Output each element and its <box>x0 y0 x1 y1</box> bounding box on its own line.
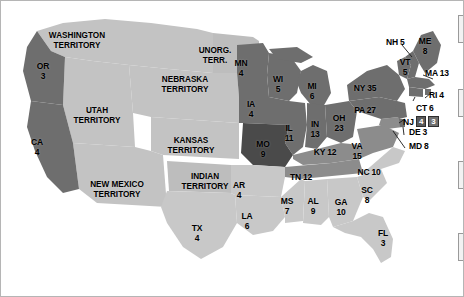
state-connecticut <box>409 87 423 97</box>
state-louisiana <box>235 195 285 235</box>
nj-vote-chip-1: 4 <box>416 116 426 127</box>
leader-line-nh <box>402 45 412 57</box>
state-missouri <box>241 123 293 167</box>
region-utah-territory <box>63 57 135 147</box>
state-michigan <box>297 65 331 107</box>
state-ohio <box>325 101 357 143</box>
leader-line-de <box>403 127 404 135</box>
map-canvas: .s-dark{fill:#6e6e6e;} .s-darkest{fill:#… <box>1 1 464 297</box>
state-new-york <box>347 65 405 101</box>
region-new-mexico-territory <box>73 143 167 207</box>
state-texas <box>161 191 237 259</box>
legend-swatch-edge-2 <box>458 89 463 117</box>
state-pennsylvania <box>349 97 399 119</box>
legend-swatch-edge-4 <box>458 233 463 261</box>
region-kansas-territory <box>151 117 239 159</box>
state-indiana <box>305 103 327 149</box>
region-indian-territory <box>167 161 231 193</box>
state-iowa <box>239 97 289 125</box>
legend-swatch-edge-1 <box>458 15 463 43</box>
leader-line-ct <box>413 97 415 101</box>
state-alabama <box>303 179 329 225</box>
legend-swatch-edge-3 <box>458 161 463 189</box>
state-arkansas <box>231 165 285 197</box>
state-massachusetts <box>407 77 435 89</box>
nj-abbr: NJ <box>403 117 414 127</box>
state-label-nj-split: NJ43 <box>403 116 439 127</box>
nj-vote-chip-2: 3 <box>428 116 438 127</box>
region-nebraska-territory <box>129 65 239 123</box>
electoral-map: .s-dark{fill:#6e6e6e;} .s-darkest{fill:#… <box>0 0 464 297</box>
state-minnesota <box>237 43 269 97</box>
